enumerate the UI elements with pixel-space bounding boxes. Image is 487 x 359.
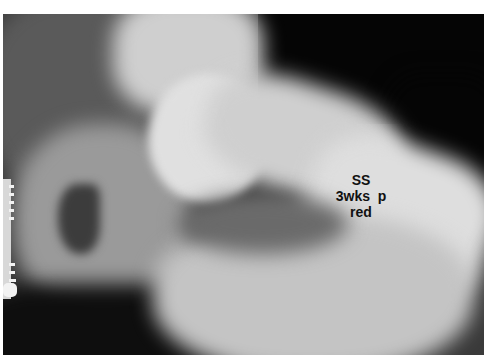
annotation-line-1: SS (306, 172, 416, 188)
annotation-line-2: 3wks p (306, 188, 416, 204)
obturator-foramen (58, 184, 100, 254)
annotation-line-3: red (306, 204, 416, 220)
surgical-screw-icon (3, 179, 17, 299)
annotation-label: SS 3wks p red (306, 172, 416, 220)
